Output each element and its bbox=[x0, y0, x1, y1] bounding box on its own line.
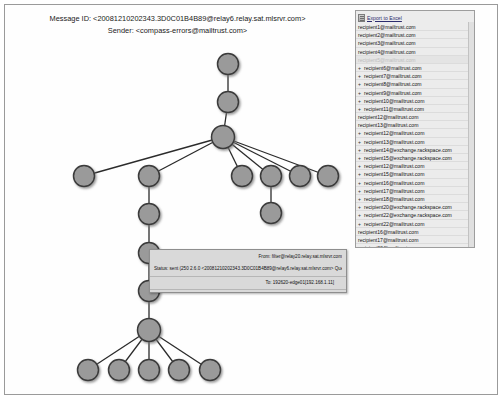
graph-nodes bbox=[74, 54, 339, 381]
recipient-list-scrollbar[interactable] bbox=[468, 22, 474, 247]
recipient-list-item[interactable]: +recipient22@mailtrust.com bbox=[356, 220, 474, 228]
recipient-address: recipient11@mailtrust.com bbox=[364, 106, 424, 112]
info-divider-2 bbox=[150, 289, 346, 290]
recipient-address: recipient13@mailtrust.com bbox=[364, 139, 424, 145]
recipient-list-item[interactable]: +recipient15@mailtrust.com bbox=[356, 170, 474, 178]
recipient-list-item[interactable]: +recipient13@mailtrust.com bbox=[356, 138, 474, 146]
recipient-list-item[interactable]: +recipient10@mailtrust.com bbox=[356, 97, 474, 105]
recipient-address: recipient10@mailtrust.com bbox=[364, 98, 424, 104]
delivery-graph[interactable] bbox=[6, 6, 354, 393]
leaf-2[interactable] bbox=[109, 360, 130, 381]
message-trace-viewer: Message ID: <20081210202343.3D0C01B4B89@… bbox=[0, 0, 504, 400]
recipient-list-item[interactable]: recipient16@mailtrust.com bbox=[356, 228, 474, 236]
recipient-list-item[interactable]: +recipient11@mailtrust.com bbox=[356, 105, 474, 113]
branch-left-mid[interactable] bbox=[139, 166, 160, 187]
recipient-list-item[interactable]: +recipient12@mailtrust.com bbox=[356, 162, 474, 170]
recipient-address: recipient2@mailtrust.com bbox=[358, 32, 416, 38]
leaf-under-right-2[interactable] bbox=[261, 203, 282, 224]
branch-right-4[interactable] bbox=[318, 166, 339, 187]
recipient-list-item[interactable]: recipient13@mailtrust.com bbox=[356, 121, 474, 129]
recipient-list-item[interactable]: +recipient14@exchange.rackspace.com bbox=[356, 146, 474, 154]
recipient-list-item[interactable]: +recipient6@mailtrust.com bbox=[356, 64, 474, 72]
recipient-address: recipient12@mailtrust.com bbox=[364, 163, 424, 169]
export-to-excel-button[interactable]: Export to Excel bbox=[356, 11, 474, 23]
hub-node[interactable] bbox=[212, 126, 235, 149]
recipient-address: recipient14@exchange.rackspace.com bbox=[364, 147, 452, 153]
graph-edges bbox=[84, 64, 328, 370]
info-to-line: To: 192620-edge01[192.168.1.11] bbox=[154, 280, 342, 285]
delivery-info-box: From: filter@relay20.relay.sat.mlsrvr.co… bbox=[149, 249, 347, 293]
recipients-panel[interactable]: Export to Excel recipient1@mailtrust.com… bbox=[355, 10, 475, 248]
chain-node-1[interactable] bbox=[139, 204, 160, 225]
branch-right-1[interactable] bbox=[232, 166, 253, 187]
branch-right-2[interactable] bbox=[261, 166, 282, 187]
chain-node-4[interactable] bbox=[138, 319, 161, 342]
branch-right-3[interactable] bbox=[290, 166, 311, 187]
recipient-list-item[interactable]: recipient3@mailtrust.com bbox=[356, 39, 474, 47]
info-divider-1 bbox=[150, 276, 346, 277]
recipient-list-item[interactable]: +recipient16@mailtrust.com bbox=[356, 179, 474, 187]
recipient-address: recipient13@mailtrust.com bbox=[358, 122, 418, 128]
recipient-address: recipient18@mailtrust.com bbox=[364, 196, 424, 202]
recipient-list-item[interactable]: +recipient7@mailtrust.com bbox=[356, 72, 474, 80]
recipient-address: recipient8@mailtrust.com bbox=[364, 81, 422, 87]
recipient-list-item[interactable]: +recipient9@mailtrust.com bbox=[356, 89, 474, 97]
recipient-list-item[interactable]: +recipient18@mailtrust.com bbox=[356, 195, 474, 203]
recipient-address: recipient23@mailtrust.com bbox=[358, 245, 418, 248]
export-to-excel-label: Export to Excel bbox=[367, 15, 402, 21]
recipient-list-item[interactable]: recipient12@mailtrust.com bbox=[356, 113, 474, 121]
info-status-line: Status: sent (250 2.6.0 <20081210202343.… bbox=[154, 266, 342, 271]
recipient-list-item[interactable]: recipient17@mailtrust.com bbox=[356, 236, 474, 244]
recipient-address: recipient16@mailtrust.com bbox=[364, 180, 424, 186]
recipient-address: recipient22@mailtrust.com bbox=[364, 221, 424, 227]
recipient-list-item[interactable]: recipient5@mailtrust.com bbox=[356, 56, 474, 64]
root-node[interactable] bbox=[218, 54, 239, 75]
recipient-list-item[interactable]: +recipient15@exchange.rackspace.com bbox=[356, 154, 474, 162]
recipient-list[interactable]: recipient1@mailtrust.comrecipient2@mailt… bbox=[356, 23, 474, 248]
graph-edge bbox=[149, 137, 223, 176]
recipient-list-item[interactable]: recipient2@mailtrust.com bbox=[356, 31, 474, 39]
relay-node[interactable] bbox=[218, 92, 239, 113]
recipient-address: recipient3@mailtrust.com bbox=[358, 40, 416, 46]
recipient-list-item[interactable]: recipient23@mailtrust.com bbox=[356, 244, 474, 248]
graph-canvas bbox=[6, 6, 354, 393]
leaf-4[interactable] bbox=[169, 360, 190, 381]
recipient-list-item[interactable]: +recipient8@mailtrust.com bbox=[356, 80, 474, 88]
recipient-list-item[interactable]: recipient4@mailtrust.com bbox=[356, 48, 474, 56]
recipient-address: recipient17@mailtrust.com bbox=[364, 188, 424, 194]
branch-left-far[interactable] bbox=[74, 166, 95, 187]
recipient-address: recipient9@mailtrust.com bbox=[364, 90, 422, 96]
recipient-address: recipient4@mailtrust.com bbox=[358, 49, 416, 55]
recipient-address: recipient6@mailtrust.com bbox=[364, 65, 422, 71]
leaf-1[interactable] bbox=[78, 360, 99, 381]
recipient-address: recipient15@mailtrust.com bbox=[364, 171, 424, 177]
recipient-address: recipient5@mailtrust.com bbox=[358, 57, 416, 63]
recipient-list-item[interactable]: +recipient12@mailtrust.com bbox=[356, 129, 474, 137]
recipient-address: recipient1@mailtrust.com bbox=[358, 24, 416, 30]
recipient-address: recipient17@mailtrust.com bbox=[358, 237, 418, 243]
recipient-list-item[interactable]: recipient1@mailtrust.com bbox=[356, 23, 474, 31]
info-from-line: From: filter@relay20.relay.sat.mlsrvr.co… bbox=[154, 254, 342, 259]
recipient-address: recipient16@mailtrust.com bbox=[358, 229, 418, 235]
leaf-3[interactable] bbox=[139, 360, 160, 381]
recipient-list-item[interactable]: +recipient22@exchange.rackspace.com bbox=[356, 211, 474, 219]
excel-icon bbox=[358, 14, 365, 22]
recipient-address: recipient15@exchange.rackspace.com bbox=[364, 155, 452, 161]
recipient-address: recipient22@exchange.rackspace.com bbox=[364, 212, 452, 218]
recipient-address: recipient20@exchange.rackspace.com bbox=[364, 204, 452, 210]
leaf-5[interactable] bbox=[200, 360, 221, 381]
recipient-list-item[interactable]: +recipient17@mailtrust.com bbox=[356, 187, 474, 195]
recipient-address: recipient12@mailtrust.com bbox=[358, 114, 418, 120]
recipient-list-item[interactable]: +recipient20@exchange.rackspace.com bbox=[356, 203, 474, 211]
recipient-address: recipient12@mailtrust.com bbox=[364, 130, 424, 136]
recipient-address: recipient7@mailtrust.com bbox=[364, 73, 422, 79]
